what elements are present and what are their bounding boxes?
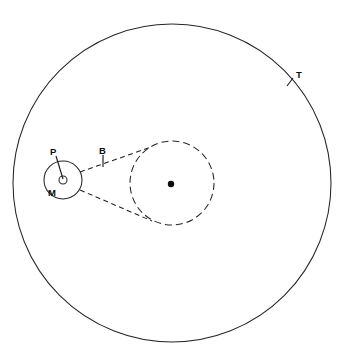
label-small-body-p: P <box>50 146 57 157</box>
center-body-dot <box>168 181 174 187</box>
label-leader-p-line <box>56 156 63 179</box>
label-tangent-b: B <box>99 145 106 156</box>
lower-tangent-line <box>80 190 152 221</box>
diagram-canvas: T P M B <box>0 0 345 362</box>
label-outer-orbit-t: T <box>296 69 302 80</box>
label-small-orbit-m: M <box>48 187 56 198</box>
orbital-geometry-diagram: T P M B <box>0 0 345 362</box>
upper-tangent-line <box>80 147 151 172</box>
label-leader-t-line <box>287 78 293 86</box>
